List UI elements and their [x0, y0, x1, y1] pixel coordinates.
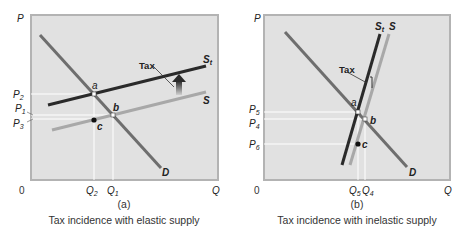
label-c-b: c	[362, 139, 368, 150]
label-demand-b: D	[409, 167, 416, 178]
panel-label-b: (b)	[351, 198, 364, 210]
quantity-label-q1: Q1	[107, 185, 119, 197]
price-label-p1: P1	[15, 103, 26, 115]
label-tax-a: Tax	[139, 60, 155, 71]
quantity-label-q2: Q2	[86, 185, 98, 197]
quantity-label-q5: Q5	[349, 185, 361, 197]
panel-a: a b c D S St Tax P Q 0 P2 P1 P3 Q2 Q1 (a…	[13, 13, 220, 226]
label-b-b: b	[370, 115, 376, 126]
axis-y-label-b: P	[254, 13, 261, 24]
point-c-b	[355, 141, 360, 146]
label-supply-a: S	[203, 95, 210, 106]
axis-x-label-b: Q	[444, 185, 452, 196]
point-c-a	[91, 117, 96, 122]
origin-label-b: 0	[254, 185, 260, 196]
label-a-a: a	[92, 80, 98, 91]
axis-y-label-a: P	[17, 13, 24, 24]
price-label-p3: P3	[13, 118, 24, 130]
point-b-b	[363, 117, 367, 121]
panel-b: a b c D S St Tax P Q 0 P5 P4 P6 Q5 Q4 (b…	[249, 13, 452, 226]
caption-b: Tax incidence with inelastic supply	[277, 214, 437, 226]
caption-a: Tax incidence with elastic supply	[48, 214, 200, 226]
price-label-p6: P6	[249, 139, 260, 151]
point-a-b	[356, 110, 360, 114]
origin-label-a: 0	[19, 185, 25, 196]
label-a-b: a	[351, 97, 357, 108]
price-label-p2: P2	[13, 89, 24, 101]
quantity-label-q4: Q4	[362, 185, 374, 197]
label-tax-b: Tax	[339, 64, 355, 75]
label-c-a: c	[97, 121, 103, 132]
point-a-a	[92, 92, 96, 96]
label-supply-b: S	[389, 21, 396, 32]
axis-x-label-a: Q	[212, 185, 220, 196]
panel-label-a: (a)	[118, 198, 131, 210]
price-label-p5: P5	[249, 104, 260, 116]
point-b-a	[111, 113, 115, 117]
label-b-a: b	[113, 102, 119, 113]
price-label-p4: P4	[249, 118, 260, 130]
label-demand-a: D	[162, 167, 169, 178]
tax-incidence-diagram: a b c D S St Tax P Q 0 P2 P1 P3 Q2 Q1 (a…	[0, 0, 465, 233]
